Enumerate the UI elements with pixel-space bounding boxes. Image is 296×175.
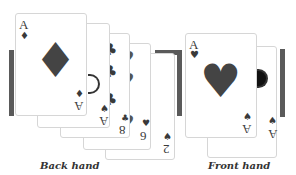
heart-icon: ♥ — [190, 50, 199, 60]
front-hand-right-bar — [280, 49, 285, 117]
back-hand-left-bar — [9, 50, 14, 116]
back-hand-bracket-side — [177, 50, 182, 116]
spade-icon: ♠ — [243, 112, 252, 122]
back-hand-caption: Back hand — [40, 160, 99, 171]
card-rank-rotated: A — [268, 128, 277, 141]
court-arc-icon — [88, 74, 100, 94]
diamond-icon: ♦ — [20, 31, 29, 41]
front-card-1-ace-hearts[interactable]: A ♥ ♥ ♠ A — [185, 33, 257, 138]
card-rank-rotated: A — [99, 115, 108, 128]
card-rank-rotated: 2 — [163, 143, 170, 156]
card-rank-rotated: A — [242, 123, 251, 136]
diamond-center-icon: ♦ — [34, 36, 77, 84]
spade-icon: ♠ — [100, 104, 109, 114]
card-rank-rotated: A — [74, 100, 83, 113]
spade-icon: ♠ — [268, 116, 277, 126]
back-card-1-ace-diamonds[interactable]: A ♦ ♦ ♦ A — [15, 13, 87, 116]
spade-icon: ♠ — [163, 132, 172, 142]
front-hand-caption: Front hand — [208, 160, 270, 171]
heart-icon: ♥ — [142, 119, 150, 128]
diamond-icon: ♦ — [75, 89, 84, 99]
card-rank-rotated: 6 — [140, 130, 147, 143]
court-arc-icon — [257, 69, 268, 88]
club-icon: ♣ — [121, 114, 129, 123]
card-rank-rotated: 8 — [119, 124, 126, 137]
heart-center-icon: ♥ — [200, 58, 241, 104]
